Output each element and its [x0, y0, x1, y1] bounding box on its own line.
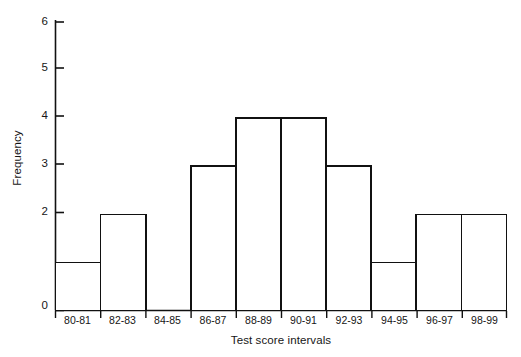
histogram-bars	[56, 118, 507, 310]
histogram-bar	[191, 166, 236, 310]
x-tick-label-2: 84-85	[145, 315, 190, 326]
x-axis-title: Test score intervals	[55, 334, 507, 346]
x-tick-label-6: 92-93	[326, 315, 372, 326]
histogram-bar	[281, 118, 326, 310]
histogram-bar	[461, 214, 506, 310]
plot-area	[0, 0, 521, 357]
x-tick-label-4: 88-89	[236, 315, 281, 326]
y-axis-title: Frequency	[11, 108, 23, 208]
x-tick-label-0: 80-81	[55, 315, 100, 326]
histogram-bar	[326, 166, 371, 310]
histogram-bar	[56, 262, 101, 310]
y-tick-label-6: 6	[26, 16, 48, 28]
y-tick-label-4: 4	[26, 110, 48, 122]
histogram-bar	[416, 214, 461, 310]
histogram-bar	[101, 214, 146, 310]
x-tick-label-8: 96-97	[417, 315, 462, 326]
histogram-bar	[236, 118, 281, 310]
y-tick-label-5: 5	[26, 62, 48, 74]
histogram-figure: Frequency Test score intervals 0 2 3 4 5…	[0, 0, 521, 357]
x-tick-label-5: 90-91	[281, 315, 326, 326]
y-tick-label-2: 2	[26, 206, 48, 218]
x-tick-label-7: 94-95	[372, 315, 417, 326]
y-tick-label-0: 0	[26, 300, 48, 312]
x-tick-label-9: 98-99	[462, 315, 507, 326]
x-tick-label-1: 82-83	[100, 315, 145, 326]
y-tick-label-3: 3	[26, 158, 48, 170]
x-tick-label-3: 86-87	[190, 315, 236, 326]
histogram-bar	[371, 262, 416, 310]
